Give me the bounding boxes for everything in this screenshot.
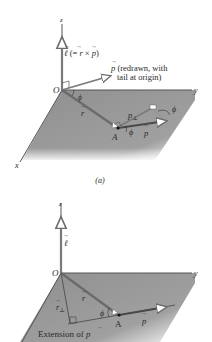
ell-label-b: → ℓ [63, 232, 69, 248]
z-axis-label-b: z [58, 200, 62, 208]
p-label-a: → p [143, 122, 149, 138]
phi-label-origin-a: ϕ [78, 93, 82, 102]
svg-text:→: → [76, 43, 82, 49]
caption-a: (a) [95, 176, 105, 185]
phi-label-a: ϕ [129, 128, 133, 137]
origin-label-b: O [52, 268, 59, 278]
z-axis-label-a: z [59, 16, 63, 24]
p-label-b: → p [141, 310, 147, 326]
y-axis-label-b: y [193, 269, 198, 278]
phi-label-tip-a: ϕ [172, 105, 176, 114]
panel-a: y x z O ℓ (= r × p) → [0, 16, 212, 185]
svg-text:ℓ: ℓ [64, 238, 68, 248]
y-axis-label-a: y [193, 86, 198, 95]
svg-text:Extension of p: Extension of p [38, 329, 91, 339]
panel-b: y z O → ℓ → r⊥ → r [20, 200, 198, 342]
angular-momentum-figure: y x z O ℓ (= r × p) → [0, 0, 212, 342]
point-a-label-a: A [111, 132, 118, 142]
x-axis-label-a: x [14, 161, 19, 170]
origin-label-a: O [53, 85, 60, 95]
svg-text:p: p [143, 128, 148, 138]
svg-text:→: → [91, 43, 97, 49]
svg-text:ℓ (= r × p): ℓ (= r × p) [64, 48, 99, 58]
svg-text:→: → [97, 324, 103, 330]
svg-text:→: → [64, 43, 70, 49]
point-a-label-b: A [115, 319, 122, 329]
point-a-marker [116, 126, 119, 129]
p-redrawn-label: → p (redrawn, with tail at origin) [110, 58, 168, 82]
point-a-marker-b [117, 313, 120, 316]
svg-text:p: p [141, 316, 146, 326]
phi-label-b: ϕ [100, 309, 104, 318]
svg-text:tail at origin): tail at origin) [117, 72, 162, 82]
ell-label-a: ℓ (= r × p) → → → [64, 43, 99, 58]
